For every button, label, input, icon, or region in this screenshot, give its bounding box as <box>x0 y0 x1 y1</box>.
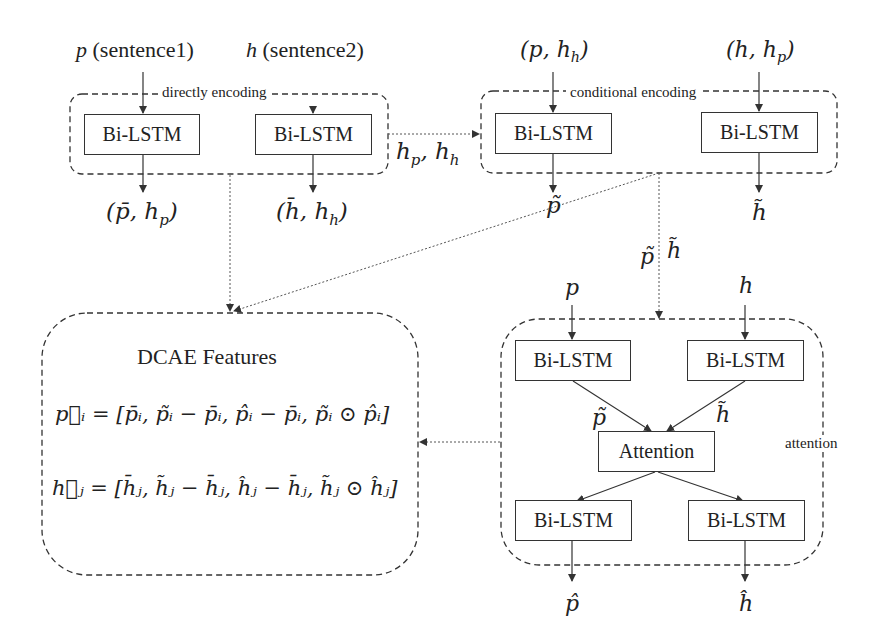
cond-input-p-sub: h <box>571 49 580 65</box>
attention-group-label: attention <box>781 435 842 452</box>
conditional-encoding-label: conditional encoding <box>566 84 700 101</box>
pass-p-tilde: p̃ <box>640 244 654 269</box>
att-h-tilde: h̃ <box>716 402 730 427</box>
hidden-states-label: hp, hh <box>396 138 459 169</box>
cond-input-p: (p, hh) <box>520 37 589 65</box>
paren: ) <box>580 37 589 62</box>
cond-input-h-sub: p <box>777 49 786 65</box>
input-h: h (sentence2) <box>246 37 364 63</box>
attention-bilstm-h-top: Bi-LSTM <box>687 340 804 381</box>
attention-bilstm-p-top: Bi-LSTM <box>515 340 631 381</box>
attention-box: Attention <box>598 431 715 472</box>
feature-equation-h: h⃗ⱼ = [h̄ⱼ, h̃ⱼ − h̄ⱼ, ĥⱼ − h̄ⱼ, h̃ⱼ ⊙ ĥ… <box>52 476 397 500</box>
pass-h-tilde: h̃ <box>667 238 681 263</box>
cond-output-h: h̃ <box>752 199 767 225</box>
attention-bilstm-p-bottom: Bi-LSTM <box>515 500 632 541</box>
feature-equation-p: p⃗ᵢ = [p̄ᵢ, p̃ᵢ − p̄ᵢ, p̂ᵢ − p̄ᵢ, p̃ᵢ ⊙ … <box>55 402 389 426</box>
direct-bilstm-h: Bi-LSTM <box>255 114 372 155</box>
direct-output-h: (h̄, hh) <box>276 198 348 229</box>
hidden-sep: , h <box>420 138 449 164</box>
input-p-desc: (sentence1) <box>93 37 194 62</box>
diagram-connectors <box>0 0 896 642</box>
direct-bilstm-p: Bi-LSTM <box>84 114 200 155</box>
input-h-desc: (sentence2) <box>263 37 364 62</box>
conditional-bilstm-p: Bi-LSTM <box>495 113 612 154</box>
cond-output-p: p̃ <box>546 192 561 218</box>
paren: ) <box>786 37 795 62</box>
final-output-h: ĥ <box>739 591 753 616</box>
attention-bilstm-h-bottom: Bi-LSTM <box>688 500 805 541</box>
paren: ) <box>339 198 348 224</box>
direct-output-h-text: (h̄, h <box>276 198 329 224</box>
conditional-bilstm-h: Bi-LSTM <box>701 112 818 153</box>
direct-output-h-sub: h <box>329 211 339 229</box>
cond-input-h: (h, hp) <box>726 37 795 65</box>
hidden-sub-p: p <box>411 151 421 169</box>
features-title: DCAE Features <box>137 344 277 370</box>
att-input-h: h <box>739 273 753 298</box>
direct-output-p: (p̄, hp) <box>106 198 178 229</box>
paren: ) <box>169 198 178 224</box>
input-p: p (sentence1) <box>76 37 194 63</box>
att-p-tilde: p̃ <box>592 405 606 430</box>
cond-input-p-text: (p, h <box>520 37 571 62</box>
direct-output-p-text: (p̄, h <box>106 198 159 224</box>
input-h-symbol: h <box>246 37 257 62</box>
hidden-sub-h: h <box>450 151 460 169</box>
cond-input-h-text: (h, h <box>726 37 777 62</box>
hidden-h: h <box>396 138 411 164</box>
input-p-symbol: p <box>76 37 87 62</box>
final-output-p: p̂ <box>565 591 579 616</box>
direct-encoding-label: directly encoding <box>158 84 271 101</box>
direct-output-p-sub: p <box>159 211 169 229</box>
att-input-p: p <box>565 275 579 300</box>
